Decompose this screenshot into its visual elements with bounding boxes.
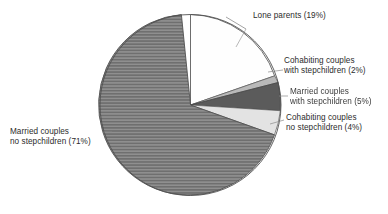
pie-label-cohabiting-no-stepchildren-line1: Cohabiting couples: [286, 113, 362, 123]
pie-label-cohabiting-no-stepchildren-line2: no stepchildren (4%): [286, 123, 362, 133]
pie-label-married-no-stepchildren: Married couples no stepchildren (71%): [10, 127, 91, 147]
pie-label-married-with-stepchildren: Married couples with stepchildren (5%): [290, 87, 372, 107]
pie-label-cohabiting-with-stepchildren-line2: with stepchildren (2%): [284, 66, 366, 76]
pie-label-married-no-stepchildren-line1: Married couples: [10, 127, 91, 137]
pie-label-married-with-stepchildren-line2: with stepchildren (5%): [290, 97, 372, 107]
pie-label-cohabiting-with-stepchildren: Cohabiting couples with stepchildren (2%…: [284, 56, 366, 76]
pie-label-married-with-stepchildren-line1: Married couples: [290, 87, 372, 97]
pie-label-married-no-stepchildren-line2: no stepchildren (71%): [10, 137, 91, 147]
pie-label-lone-parents: Lone parents (19%): [253, 11, 326, 21]
pie-label-cohabiting-no-stepchildren: Cohabiting couples no stepchildren (4%): [286, 113, 362, 133]
pie-label-lone-parents-line1: Lone parents (19%): [253, 11, 326, 21]
pie-label-cohabiting-with-stepchildren-line1: Cohabiting couples: [284, 56, 366, 66]
pie-chart-figure: Lone parents (19%) Cohabiting couples wi…: [0, 0, 388, 214]
